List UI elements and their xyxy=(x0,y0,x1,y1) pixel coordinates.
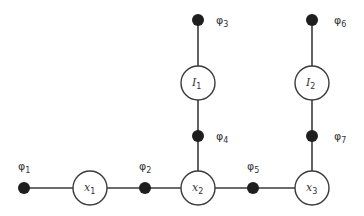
factor-node-phi7 xyxy=(306,130,318,142)
factor-label-subscript: 2 xyxy=(146,166,151,175)
factor-label-base: φ xyxy=(334,14,341,27)
factor-node-phi4 xyxy=(192,130,204,142)
factor-label-phi6: φ6 xyxy=(334,14,346,29)
factor-node-phi6 xyxy=(306,14,318,26)
factor-label-base: φ xyxy=(216,14,223,27)
factor-node-phi1 xyxy=(18,182,30,194)
factor-label-subscript: 1 xyxy=(25,166,30,175)
factor-node-phi3 xyxy=(192,14,204,26)
variable-label-subscript: 3 xyxy=(312,187,317,196)
edges-layer xyxy=(24,20,312,188)
factor-label-phi2: φ2 xyxy=(139,160,151,175)
factor-label-subscript: 6 xyxy=(341,20,346,29)
factors-layer xyxy=(18,14,318,194)
factor-node-phi5 xyxy=(247,182,259,194)
factor-label-base: φ xyxy=(216,130,223,143)
factor-label-phi4: φ4 xyxy=(216,130,228,145)
variable-label-subscript: 2 xyxy=(310,82,315,91)
factor-label-base: φ xyxy=(247,160,254,173)
factor-label-subscript: 3 xyxy=(223,20,228,29)
variable-label-subscript: 2 xyxy=(198,187,203,196)
factor-label-phi1: φ1 xyxy=(18,160,30,175)
factor-label-phi7: φ7 xyxy=(334,130,346,145)
factor-node-phi2 xyxy=(139,182,151,194)
variable-label-subscript: 1 xyxy=(196,82,201,91)
factor-label-phi5: φ5 xyxy=(247,160,259,175)
factor-label-base: φ xyxy=(18,160,25,173)
factor-label-base: φ xyxy=(139,160,146,173)
factor-label-phi3: φ3 xyxy=(216,14,228,29)
variable-label-subscript: 1 xyxy=(90,187,95,196)
factor-label-subscript: 7 xyxy=(341,136,346,145)
factor-label-subscript: 5 xyxy=(254,166,259,175)
factor-label-subscript: 4 xyxy=(223,136,228,145)
labels-layer: φ1φ2φ3φ4φ5φ6φ7x1x2x3I1I2 xyxy=(18,14,346,196)
factor-label-base: φ xyxy=(334,130,341,143)
factor-graph-diagram: φ1φ2φ3φ4φ5φ6φ7x1x2x3I1I2 xyxy=(0,0,364,216)
